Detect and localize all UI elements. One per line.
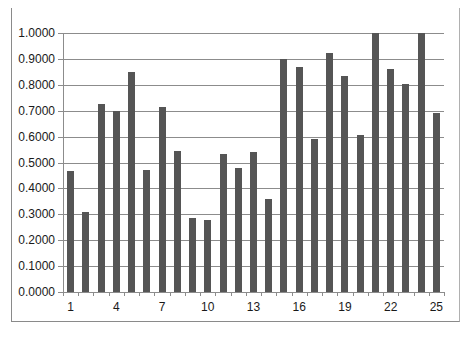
bar [189,218,196,292]
bar [280,59,287,292]
bar [372,33,379,292]
y-tick-label: 0.2000 [18,233,55,247]
x-tick-label: 4 [113,300,120,314]
x-tick [444,292,445,296]
x-tick [322,292,323,296]
x-tick [63,292,64,296]
x-tick-label: 16 [293,300,306,314]
bar [143,170,150,292]
x-tick [154,292,155,296]
bar [235,168,242,292]
y-tick-label: 0.6000 [18,130,55,144]
bar [265,199,272,292]
bar [402,84,409,292]
x-tick [353,292,354,296]
bar [387,69,394,292]
y-tick [58,59,63,60]
x-tick [383,292,384,296]
x-tick [398,292,399,296]
bar [341,76,348,292]
x-tick [200,292,201,296]
x-tick [337,292,338,296]
y-tick-label: 0.0000 [18,285,55,299]
x-tick [185,292,186,296]
x-tick-label: 19 [338,300,351,314]
bar [82,212,89,292]
y-tick-label: 0.4000 [18,181,55,195]
x-tick [215,292,216,296]
y-tick [58,137,63,138]
x-tick [246,292,247,296]
bar [67,171,74,292]
x-tick [414,292,415,296]
bar [174,151,181,292]
x-tick [292,292,293,296]
y-tick-label: 0.1000 [18,259,55,273]
bar [433,113,440,292]
bar [250,152,257,292]
x-tick [261,292,262,296]
bar [326,53,333,292]
x-tick [170,292,171,296]
x-tick-label: 22 [384,300,397,314]
y-tick-label: 1.0000 [18,26,55,40]
bar [418,33,425,292]
y-tick [58,163,63,164]
x-tick [307,292,308,296]
y-tick [58,240,63,241]
y-tick-label: 0.7000 [18,104,55,118]
x-tick [276,292,277,296]
bar [204,220,211,292]
gridline [63,33,444,34]
x-tick-label: 25 [430,300,443,314]
x-tick [231,292,232,296]
bar [128,72,135,292]
bar [220,154,227,292]
bar [311,139,318,292]
x-tick-label: 10 [201,300,214,314]
y-tick [58,33,63,34]
y-tick [58,188,63,189]
x-tick [78,292,79,296]
y-tick-label: 0.9000 [18,52,55,66]
x-tick [109,292,110,296]
y-tick-label: 0.3000 [18,207,55,221]
y-tick [58,111,63,112]
y-tick [58,214,63,215]
x-tick [429,292,430,296]
y-tick [58,85,63,86]
bar [357,135,364,292]
bar [113,111,120,292]
bar [159,107,166,292]
x-tick [93,292,94,296]
gridline [63,292,444,293]
gridline [63,59,444,60]
y-tick-label: 0.8000 [18,78,55,92]
bar [296,67,303,292]
x-tick-label: 7 [159,300,166,314]
plot-area [63,33,444,292]
bar [98,104,105,292]
x-tick-label: 13 [247,300,260,314]
x-tick [124,292,125,296]
y-tick [58,266,63,267]
x-tick [139,292,140,296]
x-tick [368,292,369,296]
x-tick-label: 1 [67,300,74,314]
y-tick-label: 0.5000 [18,156,55,170]
